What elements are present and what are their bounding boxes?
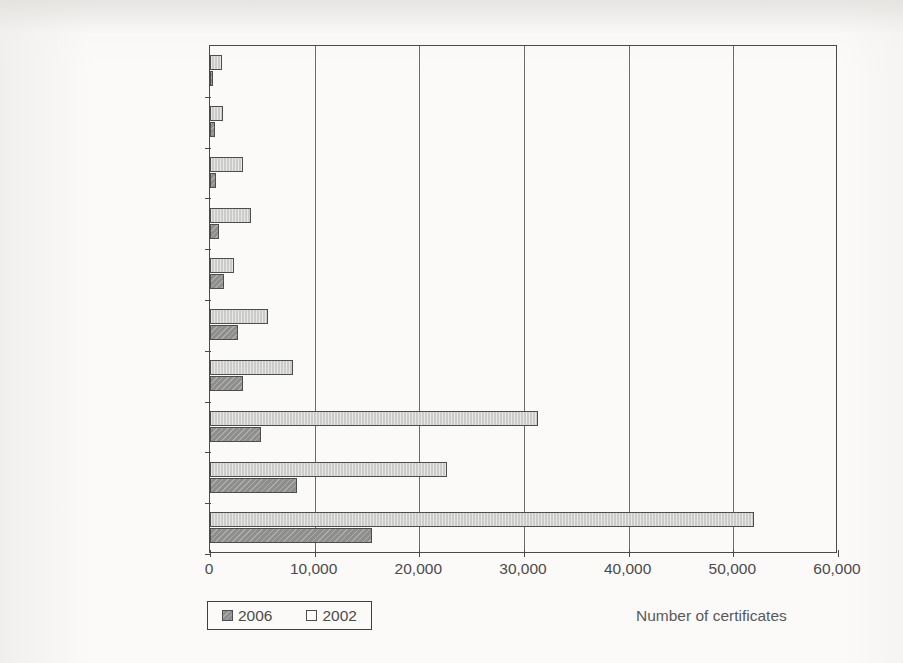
y-tickmark xyxy=(205,198,211,199)
x-tickmark xyxy=(629,550,630,557)
x-tickmark xyxy=(315,550,316,557)
bar-2006 xyxy=(210,325,238,340)
x-axis-title: Number of certificates xyxy=(636,607,787,625)
x-tick-label: 40,000 xyxy=(604,560,651,578)
bar-2002 xyxy=(210,106,223,121)
x-axis-tick-labels: 010,00020,00030,00040,00050,00060,000 xyxy=(0,560,903,586)
bar-2002 xyxy=(210,512,754,527)
y-tickmark xyxy=(205,452,211,453)
bar-2006 xyxy=(210,528,372,543)
legend-swatch-icon xyxy=(306,610,317,621)
bar-2002 xyxy=(210,462,447,477)
bar-2002 xyxy=(210,360,293,375)
legend-entry-2006[interactable]: 2006 xyxy=(222,607,272,625)
x-tickmark xyxy=(838,550,839,557)
bar-2002 xyxy=(210,208,251,223)
x-gridline xyxy=(629,46,630,552)
legend-label: 2002 xyxy=(322,607,356,625)
x-tickmark xyxy=(524,550,525,557)
y-tickmark xyxy=(205,148,211,149)
bar-2006 xyxy=(210,427,261,442)
y-tickmark xyxy=(205,300,211,301)
x-tick-label: 10,000 xyxy=(290,560,337,578)
plot-area xyxy=(209,45,837,553)
x-tickmark xyxy=(419,550,420,557)
bar-2006 xyxy=(210,173,216,188)
legend-swatch-icon xyxy=(222,610,233,621)
x-tick-label: 20,000 xyxy=(395,560,442,578)
bar-2006 xyxy=(210,376,243,391)
x-tick-label: 50,000 xyxy=(709,560,756,578)
x-tick-label: 60,000 xyxy=(813,560,860,578)
bar-2006 xyxy=(210,122,215,137)
y-tickmark xyxy=(205,249,211,250)
bar-2002 xyxy=(210,157,243,172)
bar-2006 xyxy=(210,224,219,239)
bar-2002 xyxy=(210,411,538,426)
x-tick-label: 0 xyxy=(205,560,214,578)
y-tickmark xyxy=(205,554,211,555)
y-tickmark xyxy=(205,97,211,98)
bar-chart: Middle EastAfricaWest AsiaC. & S. Americ… xyxy=(0,0,903,663)
chart-legend[interactable]: 20062002 xyxy=(207,601,372,630)
x-gridline xyxy=(524,46,525,552)
legend-entry-2002[interactable]: 2002 xyxy=(306,607,356,625)
bar-2002 xyxy=(210,55,222,70)
x-tick-label: 30,000 xyxy=(499,560,546,578)
x-gridline xyxy=(733,46,734,552)
bar-2006 xyxy=(210,274,224,289)
bar-2002 xyxy=(210,258,234,273)
bar-2002 xyxy=(210,309,268,324)
y-tickmark xyxy=(205,351,211,352)
y-tickmark xyxy=(205,402,211,403)
bar-2006 xyxy=(210,71,213,86)
x-tickmark xyxy=(733,550,734,557)
y-tickmark xyxy=(205,503,211,504)
bar-2006 xyxy=(210,478,297,493)
legend-label: 2006 xyxy=(238,607,272,625)
